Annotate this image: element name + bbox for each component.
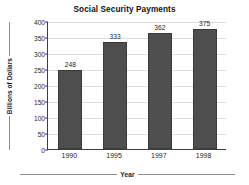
x-axis-title-label: Year — [117, 171, 137, 178]
x-axis-ticks: 1990199519971998 — [47, 152, 226, 164]
bar-group[interactable]: 248 — [58, 22, 82, 149]
y-tick-label: 150 — [19, 99, 45, 106]
bar[interactable] — [103, 42, 127, 149]
x-tick-label: 1997 — [151, 152, 167, 159]
y-tick-label: 300 — [19, 51, 45, 58]
x-tick-label: 1995 — [106, 152, 122, 159]
y-axis-ticks: 050100150200250300350400 — [16, 22, 45, 150]
bar[interactable] — [58, 70, 82, 149]
y-axis-title-rule-bottom — [9, 116, 10, 150]
y-axis-title: Billions of Dollars — [2, 22, 16, 150]
y-tick-label: 350 — [19, 35, 45, 42]
x-axis-title-rule-right — [138, 174, 235, 175]
x-axis-title: Year — [20, 168, 235, 180]
y-tick-label: 400 — [19, 19, 45, 26]
chart-title: Social Security Payments — [0, 5, 249, 14]
y-tick-label: 100 — [19, 115, 45, 122]
y-tick-label: 50 — [19, 131, 45, 138]
bars-layer: 248333362375 — [48, 22, 226, 149]
y-axis-title-label: Billions of Dollars — [6, 56, 13, 116]
plot-area: 248333362375 — [47, 22, 226, 150]
bar-value-label: 362 — [154, 24, 165, 31]
bar-value-label: 375 — [199, 20, 210, 27]
bar[interactable] — [148, 33, 172, 149]
y-axis-title-rule-top — [9, 22, 10, 56]
bar-group[interactable]: 362 — [148, 22, 172, 149]
y-tick-label: 0 — [19, 147, 45, 154]
x-axis-title-rule-left — [20, 174, 117, 175]
bar[interactable] — [193, 29, 217, 149]
bar-value-label: 333 — [110, 33, 121, 40]
y-tick-label: 200 — [19, 83, 45, 90]
x-tick-label: 1998 — [196, 152, 212, 159]
bar-value-label: 248 — [65, 61, 76, 68]
bar-group[interactable]: 333 — [103, 22, 127, 149]
x-tick-label: 1990 — [62, 152, 78, 159]
bar-chart: Social Security Payments Billions of Dol… — [0, 0, 249, 185]
y-tick-label: 250 — [19, 67, 45, 74]
bar-group[interactable]: 375 — [193, 22, 217, 149]
